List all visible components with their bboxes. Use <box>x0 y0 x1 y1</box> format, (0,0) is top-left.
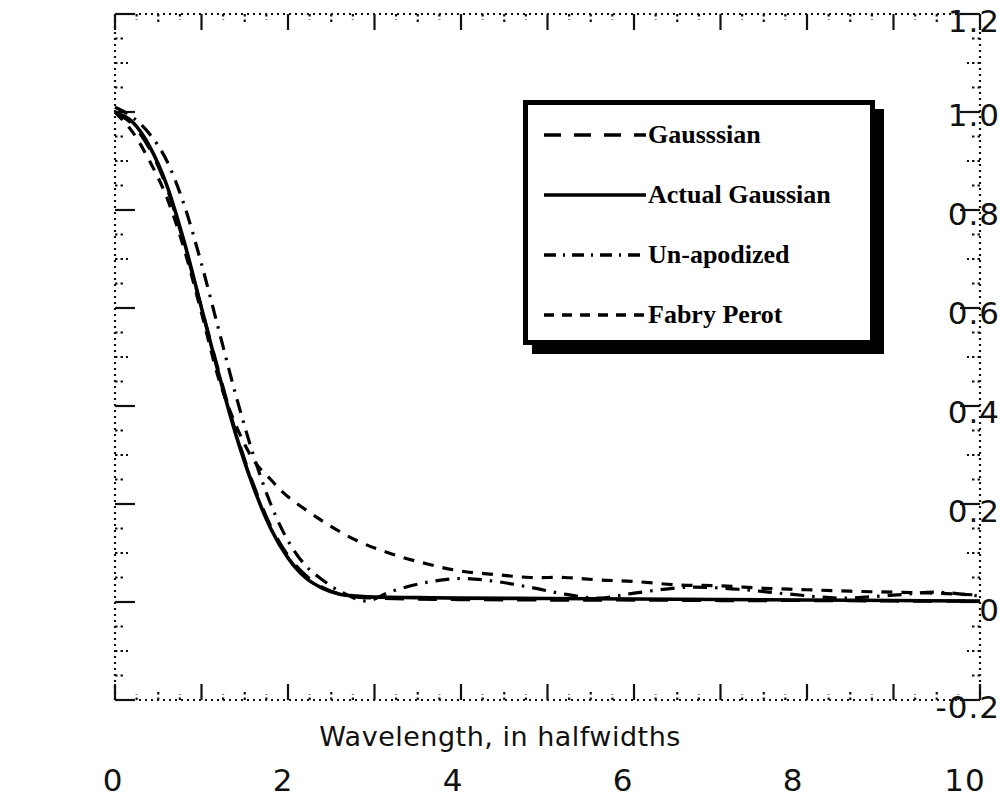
x-axis-title: Wavelength, in halfwidths <box>0 721 1000 752</box>
ytick-label-2: 1.0 <box>908 100 1000 131</box>
ytick-label-8: -0.2 <box>908 692 1000 723</box>
legend-label-fabry-perot: Fabry Perot <box>648 300 783 330</box>
xtick-label-3: 4 <box>413 765 493 796</box>
xtick-label-5: 8 <box>753 765 833 796</box>
ytick-label-4: 0.6 <box>908 298 1000 329</box>
legend: Gausssian Actual Gaussian Un-apodized Fa… <box>523 100 875 345</box>
ytick-label-7: 0 <box>908 595 1000 626</box>
xtick-label-4: 6 <box>583 765 663 796</box>
legend-swatch-short-dash <box>542 305 648 325</box>
legend-entry-fabry-perot: Fabry Perot <box>528 293 870 337</box>
ytick-label-1: 1.2 <box>908 6 1000 37</box>
legend-swatch-solid <box>542 185 648 205</box>
legend-label-gausssian: Gausssian <box>648 120 761 150</box>
xtick-label-6: 10 <box>925 765 1000 796</box>
xtick-label-1: 0 <box>73 765 153 796</box>
legend-label-actual-gaussian: Actual Gaussian <box>648 180 831 210</box>
legend-swatch-long-dash <box>542 125 648 145</box>
ytick-label-6: 0.2 <box>908 496 1000 527</box>
xtick-label-2: 2 <box>243 765 323 796</box>
legend-swatch-dash-dot <box>542 245 648 265</box>
legend-entry-actual-gaussian: Actual Gaussian <box>528 173 870 217</box>
legend-label-un-apodized: Un-apodized <box>648 240 790 270</box>
chart-figure: 1.2 1.0 0.8 0.6 0.4 0.2 0 -0.2 0 2 4 6 8… <box>0 0 1000 808</box>
ytick-label-5: 0.4 <box>908 397 1000 428</box>
ytick-label-3: 0.8 <box>908 199 1000 230</box>
legend-entry-un-apodized: Un-apodized <box>528 233 870 277</box>
legend-entry-gausssian: Gausssian <box>528 113 870 157</box>
